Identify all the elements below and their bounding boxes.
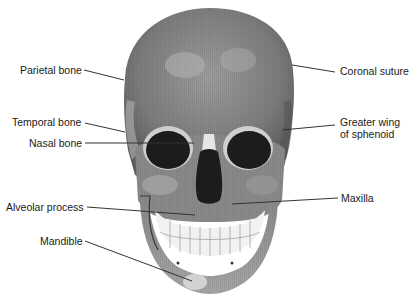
label-mandible: Mandible	[40, 235, 83, 247]
leader-coronal	[292, 65, 335, 72]
skull-diagram: Parietal bone Temporal bone Nasal bone A…	[0, 0, 412, 306]
left-orbit	[146, 131, 190, 169]
skull-illustration	[0, 0, 412, 306]
label-nasal-bone: Nasal bone	[29, 137, 82, 149]
label-greater-wing-line1: Greater wing	[340, 116, 400, 128]
label-temporal-bone: Temporal bone	[12, 116, 81, 128]
nasal-cavity	[196, 149, 222, 204]
label-coronal-suture: Coronal suture	[340, 65, 409, 77]
leader-parietal	[84, 70, 124, 80]
leader-temporal	[85, 123, 125, 132]
label-alveolar-process: Alveolar process	[6, 201, 84, 213]
label-maxilla: Maxilla	[341, 192, 374, 204]
right-orbit	[227, 131, 271, 169]
label-greater-wing-line2: of sphenoid	[340, 128, 394, 140]
label-parietal-bone: Parietal bone	[20, 64, 82, 76]
